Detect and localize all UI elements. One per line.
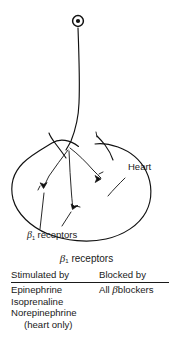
heart-outline xyxy=(12,140,151,241)
list-item: All βblockers xyxy=(99,284,169,296)
table-body-row: Epinephrine Isoprenaline Norepinephrine … xyxy=(11,283,169,331)
receptor-callout-subscript: 1 xyxy=(32,235,35,241)
heart-vessel-left xyxy=(49,133,66,158)
cell-stimulated-by: Epinephrine Isoprenaline Norepinephrine … xyxy=(11,283,99,331)
nerve-fiber-main xyxy=(66,28,79,150)
list-item: Epinephrine xyxy=(11,284,99,296)
column-header-stimulated: Stimulated by xyxy=(11,269,99,283)
stimulated-by-list: Epinephrine Isoprenaline Norepinephrine … xyxy=(11,284,99,330)
receptor-leader-center xyxy=(62,212,71,226)
caption-receptors-text: receptors xyxy=(71,253,113,264)
list-item: (heart only) xyxy=(11,319,99,331)
table-header-row: Stimulated by Blocked by xyxy=(11,269,169,283)
blocked-by-prefix: All xyxy=(99,284,110,295)
heart-label-leader xyxy=(108,178,125,196)
blocked-by-list: All βblockers xyxy=(99,284,169,296)
cell-blocked-by: All βblockers xyxy=(99,283,169,331)
list-item: Isoprenaline xyxy=(11,296,99,308)
nerve-branch-right xyxy=(70,148,101,178)
heart-innervation-diagram: Heart β1receptors xyxy=(0,0,173,250)
list-item: Norepinephrine xyxy=(11,307,99,319)
heart-vessel-right xyxy=(97,136,113,160)
caption-beta-subscript: 1 xyxy=(65,258,68,264)
blocked-by-suffix: blockers xyxy=(118,284,154,295)
nerve-terminal-right-bar xyxy=(99,172,103,174)
nerve-branch-center xyxy=(69,151,73,208)
receptor-leader-left xyxy=(40,193,44,229)
nerve-terminal-left xyxy=(40,183,47,189)
receptor-callout: β1receptors xyxy=(26,229,77,241)
heart-vessel-right-tip xyxy=(96,132,97,137)
heart-label: Heart xyxy=(128,161,152,172)
nerve-terminal-left-bar xyxy=(38,186,40,190)
legend-text-block: β1 receptors Stimulated by Blocked by Ep… xyxy=(0,252,173,330)
receptor-callout-text: receptors xyxy=(38,229,78,240)
ganglion-core-icon xyxy=(76,19,80,23)
receptor-drugs-table: Stimulated by Blocked by Epinephrine Iso… xyxy=(11,269,169,330)
column-header-blocked: Blocked by xyxy=(99,269,169,283)
beta1-receptor-heart-figure: Heart β1receptors β1 receptors Stimulate… xyxy=(0,0,173,346)
receptor-caption: β1 receptors xyxy=(0,252,173,269)
